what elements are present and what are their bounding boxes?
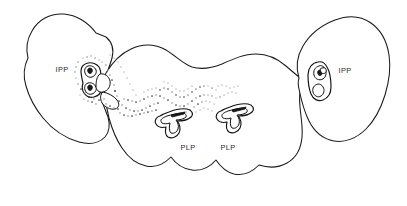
right-ipp-nucleus-hook xyxy=(320,68,326,74)
label-plp-left: PLP xyxy=(180,143,195,152)
label-ipp-left: IPP xyxy=(56,65,69,74)
left-ipp-nucleus-core-a xyxy=(88,68,93,74)
left-ipp-nucleus-core-b xyxy=(88,85,93,91)
section-diagram: IPP IPP PLP PLP xyxy=(0,0,407,206)
right-ipp-nucleus xyxy=(308,62,331,101)
label-ipp-right: IPP xyxy=(339,66,352,75)
figure-root: IPP IPP PLP PLP xyxy=(0,0,407,206)
central-body-outline xyxy=(103,45,302,175)
left-ipp-nucleus-lobe-right xyxy=(96,74,110,92)
label-plp-right: PLP xyxy=(220,143,235,152)
right-ipp-nucleus-inner-lower xyxy=(313,84,324,97)
